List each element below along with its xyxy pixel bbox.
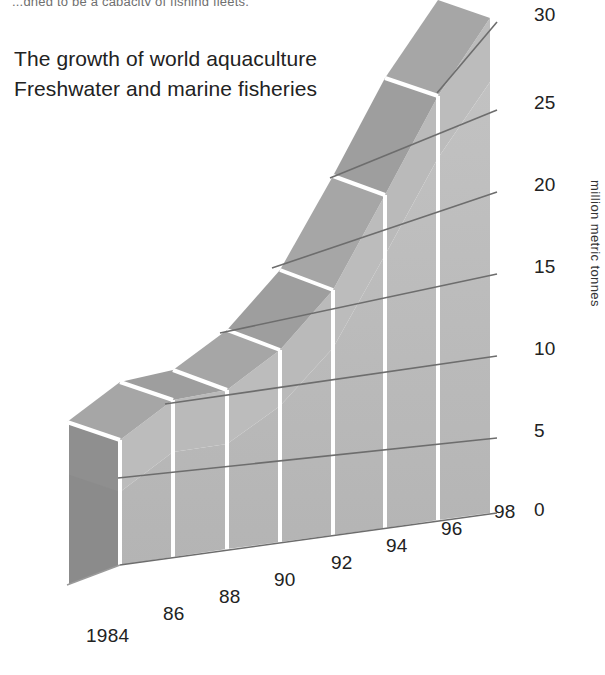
y-tick-0: 0 <box>534 499 545 521</box>
ribbon-left-endcap <box>67 422 120 585</box>
y-axis-title: million metric tonnes <box>588 180 603 307</box>
x-tick-98: 98 <box>494 501 516 523</box>
y-tick-5: 5 <box>534 420 545 442</box>
x-tick-94: 94 <box>386 535 408 557</box>
x-tick-96: 96 <box>441 518 463 540</box>
x-tick-88: 88 <box>219 586 241 608</box>
y-tick-25: 25 <box>534 92 556 114</box>
y-tick-20: 20 <box>534 174 556 196</box>
y-tick-30: 30 <box>534 4 556 26</box>
x-tick-92: 92 <box>331 552 353 574</box>
y-tick-10: 10 <box>534 338 556 360</box>
ribbon-chart-graphic <box>0 0 605 675</box>
y-tick-15: 15 <box>534 256 556 278</box>
x-tick-86: 86 <box>163 603 185 625</box>
x-tick-1984: 1984 <box>86 625 129 647</box>
x-tick-90: 90 <box>274 569 296 591</box>
chart-canvas: ...gned to be a capacity of fishing flee… <box>0 0 605 675</box>
